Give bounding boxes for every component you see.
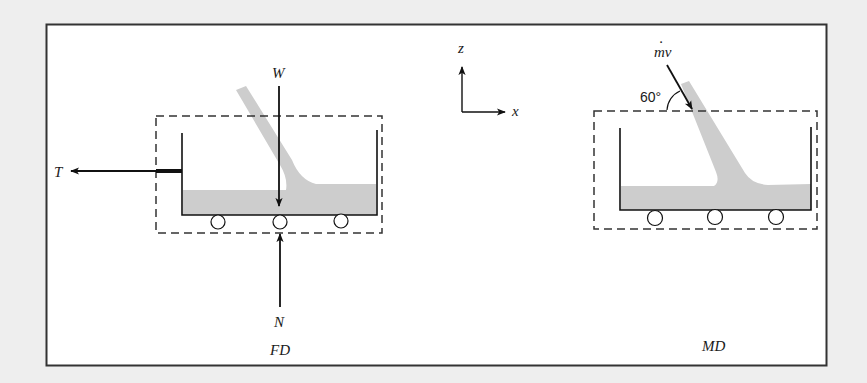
- angle-label: 60°: [640, 89, 661, 105]
- x-axis-label: x: [511, 103, 519, 119]
- wheel: [769, 210, 784, 225]
- z-axis-label: z: [457, 40, 464, 56]
- fd-caption: FD: [269, 342, 290, 358]
- md-caption: MD: [701, 338, 725, 354]
- wheel: [273, 215, 287, 229]
- wheel: [211, 215, 225, 229]
- momentum-flux-label: mv: [654, 44, 672, 60]
- momentum-flux-dot: ·: [659, 34, 663, 50]
- weight-label: W: [272, 65, 286, 81]
- wheel: [648, 211, 663, 226]
- wheel: [708, 210, 723, 225]
- wheel: [334, 214, 348, 228]
- normal-label: N: [273, 314, 285, 330]
- fd-md-diagram: W N T FD z x mv · 60° MD: [0, 0, 867, 383]
